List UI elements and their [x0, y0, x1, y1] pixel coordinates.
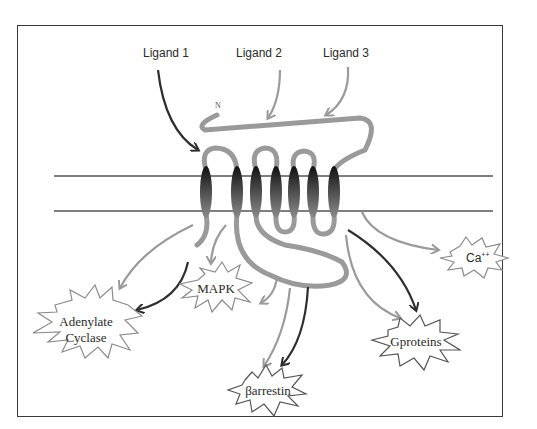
gproteins-label: Gproteins	[390, 334, 441, 349]
helix-6	[307, 166, 319, 218]
arrow-to-adenylate-cyclase-dark	[137, 262, 188, 310]
adenylate-cyclase-node: Adenylate Cyclase	[33, 285, 142, 358]
barrestin-node: βarrestin	[228, 365, 306, 416]
ligand-3-label: Ligand 3	[323, 46, 369, 60]
arrow-to-gproteins-dark	[348, 230, 416, 310]
arrow-to-barrestin-light	[264, 288, 290, 366]
helix-1	[200, 166, 212, 218]
helix-3	[250, 166, 262, 218]
adenylate-cyclase-label-line2: Cyclase	[65, 330, 106, 345]
helix-4	[270, 166, 282, 218]
ligand-2-label: Ligand 2	[236, 46, 282, 60]
n-terminus-label: N	[215, 101, 221, 110]
barrestin-label: βarrestin	[245, 383, 291, 398]
extracellular-loops	[202, 115, 372, 170]
arrow-from-loop-to-mapk	[261, 277, 277, 303]
mapk-node: MAPK	[180, 262, 252, 312]
ligand-2-arrow	[268, 70, 280, 118]
helix-5	[288, 166, 300, 218]
arrow-to-mapk	[211, 225, 226, 263]
mapk-label: MAPK	[197, 281, 235, 296]
calcium-node: Ca++	[440, 237, 508, 278]
helix-7	[328, 166, 340, 218]
transmembrane-helices	[200, 166, 340, 218]
ligand-3-arrow	[326, 67, 348, 115]
helix-2	[231, 166, 243, 218]
arrow-to-barrestin-dark	[282, 287, 308, 365]
adenylate-cyclase-label-line1: Adenylate	[59, 314, 113, 329]
gpcr-diagram: Ligand 1 Ligand 2 Ligand 3 N	[0, 0, 537, 429]
ligand-1-arrow	[158, 70, 198, 150]
arrow-to-calcium	[362, 212, 438, 250]
gproteins-node: Gproteins	[372, 315, 460, 370]
ligand-1-label: Ligand 1	[143, 46, 189, 60]
diagram-canvas: Ligand 1 Ligand 2 Ligand 3 N	[0, 0, 537, 429]
